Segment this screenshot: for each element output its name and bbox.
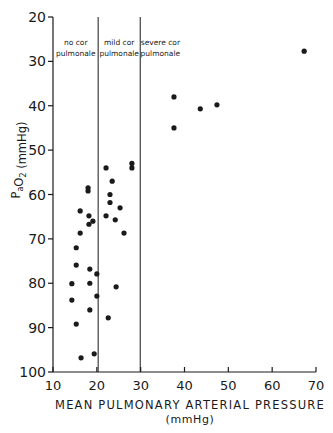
data-point [74, 245, 79, 250]
data-point [85, 188, 90, 193]
data-point [69, 281, 74, 286]
data-point [92, 351, 97, 356]
x-axis-label: MEAN PULMONARY ARTERIAL PRESSURE [55, 398, 325, 412]
y-tick-label: 20 [28, 9, 46, 25]
y-tick-label: 70 [28, 231, 46, 247]
axes: 203040506070809010010203040506070 [19, 9, 324, 393]
data-point [121, 231, 126, 236]
y-tick-label: 90 [28, 320, 46, 336]
data-point [107, 200, 112, 205]
x-tick-label: 40 [176, 378, 193, 393]
data-point [86, 213, 91, 218]
region-label: mild cor [104, 38, 135, 47]
data-point [110, 179, 115, 184]
data-point [74, 321, 79, 326]
data-points [69, 49, 307, 361]
data-point [302, 49, 307, 54]
data-point [103, 213, 108, 218]
data-point [69, 298, 74, 303]
data-point [114, 284, 119, 289]
y-tick-label: 60 [28, 187, 46, 203]
region-label: no cor [64, 38, 88, 47]
x-tick-label: 10 [45, 378, 62, 393]
data-point [103, 165, 108, 170]
y-tick-label: 30 [28, 53, 46, 69]
region-labels: no corpulmonalemild corpulmonalesevere c… [56, 38, 181, 58]
x-tick-label: 70 [308, 378, 325, 393]
data-point [87, 281, 92, 286]
y-axis-label: PaO2 (mmHg) [9, 122, 29, 199]
y-tick-label: 50 [28, 142, 46, 158]
data-point [87, 307, 92, 312]
x-axis-unit: (mmHg) [166, 413, 215, 426]
data-point [78, 231, 83, 236]
region-label: pulmonale [99, 49, 139, 58]
data-point [117, 205, 122, 210]
plot-area: 203040506070809010010203040506070 no cor… [0, 0, 333, 433]
scatter-chart: 203040506070809010010203040506070 no cor… [0, 0, 333, 433]
data-point [129, 165, 134, 170]
data-point [86, 222, 91, 227]
data-point [214, 102, 219, 107]
region-label: pulmonale [56, 49, 96, 58]
x-tick-label: 50 [220, 378, 237, 393]
data-point [94, 294, 99, 299]
y-tick-label: 100 [19, 364, 46, 380]
data-point [106, 315, 111, 320]
data-point [129, 161, 134, 166]
data-point [171, 94, 176, 99]
x-tick-label: 30 [132, 378, 149, 393]
data-point [78, 355, 83, 360]
data-point [78, 208, 83, 213]
data-point [74, 262, 79, 267]
region-label: severe cor [141, 38, 181, 47]
data-point [94, 271, 99, 276]
data-point [113, 217, 118, 222]
region-dividers [98, 17, 140, 372]
x-tick-label: 20 [89, 378, 106, 393]
data-point [107, 192, 112, 197]
x-tick-label: 60 [264, 378, 281, 393]
data-point [87, 266, 92, 271]
data-point [171, 125, 176, 130]
y-tick-label: 80 [28, 275, 46, 291]
data-point [198, 106, 203, 111]
region-label: pulmonale [141, 49, 181, 58]
y-tick-label: 40 [28, 98, 46, 114]
